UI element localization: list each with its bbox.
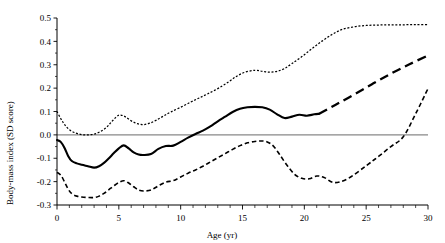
x-tick-label: 15 xyxy=(238,213,248,223)
y-tick-label: -0.1 xyxy=(37,153,51,163)
y-tick-label: 0.1 xyxy=(40,107,51,117)
series-lower-confidence-limit xyxy=(57,89,428,198)
x-tick-label: 25 xyxy=(362,213,372,223)
y-tick-label: 0.2 xyxy=(40,83,51,93)
y-tick-label: 0.4 xyxy=(40,37,52,47)
bmi-sd-score-chart: 0.50.40.30.20.10.0-0.1-0.2-0.30510152025… xyxy=(0,0,445,243)
y-tick-label: 0.5 xyxy=(40,13,52,23)
y-tick-label: 0.3 xyxy=(40,60,52,70)
y-tick-label: -0.3 xyxy=(37,200,52,210)
x-tick-label: 30 xyxy=(424,213,434,223)
series-point-estimate-extrapolated xyxy=(319,55,428,113)
series-upper-confidence-limit xyxy=(57,25,428,135)
x-axis-title: Age (yr) xyxy=(207,230,238,240)
x-tick-label: 5 xyxy=(117,213,122,223)
y-tick-label: 0.0 xyxy=(40,130,52,140)
x-tick-label: 0 xyxy=(55,213,60,223)
x-tick-label: 10 xyxy=(176,213,186,223)
series-point-estimate xyxy=(57,107,319,168)
y-axis-title: Body-mass index (SD score) xyxy=(5,101,15,205)
chart-plot-area: 0.50.40.30.20.10.0-0.1-0.2-0.30510152025… xyxy=(0,0,445,243)
y-tick-label: -0.2 xyxy=(37,177,51,187)
x-tick-label: 20 xyxy=(300,213,310,223)
